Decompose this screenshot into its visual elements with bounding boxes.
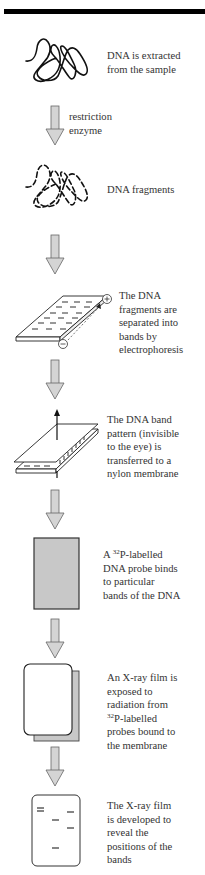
developed-film-icon xyxy=(32,795,80,866)
text-fragment: P-labelled xyxy=(114,713,157,724)
text-line: is developed to xyxy=(107,813,172,827)
minus-electrode-icon xyxy=(59,340,68,349)
text-line: enzyme xyxy=(69,124,112,138)
text-line: the membrane xyxy=(107,739,177,753)
text-line: to the eye) is xyxy=(107,440,179,454)
step-develop-text: The X-ray film is developed to reveal th… xyxy=(107,799,172,867)
text-line: to particular xyxy=(103,575,180,589)
step-transfer-text: The DNA band pattern (invisible to the e… xyxy=(107,413,179,481)
step-enzyme-text: restriction enzyme xyxy=(69,110,112,137)
gel-electrophoresis-icon xyxy=(16,295,112,349)
text-line: exposed to xyxy=(107,685,177,699)
superscript: 32 xyxy=(107,712,114,720)
step-xray-text: An X-ray film is exposed to radiation fr… xyxy=(107,671,177,753)
text-line: transferred to a xyxy=(107,454,179,468)
text-line: bands of the DNA xyxy=(103,589,180,603)
plus-electrode-icon xyxy=(103,295,112,304)
text-line: The DNA xyxy=(119,289,183,303)
text-fragment: A xyxy=(103,549,113,560)
text-line: DNA is extracted xyxy=(107,49,181,63)
step-probe-text: A 32P-labelled DNA probe binds to partic… xyxy=(103,548,180,602)
membrane-transfer-icon xyxy=(14,409,98,478)
down-arrow-icon xyxy=(46,106,64,145)
top-rule xyxy=(4,9,205,14)
step-fragments-text: DNA fragments xyxy=(107,183,174,197)
text-line: The X-ray film xyxy=(107,799,172,813)
step-extract-text: DNA is extracted from the sample xyxy=(107,49,181,76)
text-line: electrophoresis xyxy=(119,343,183,357)
superscript: 32 xyxy=(113,548,120,556)
text-line: radiation from xyxy=(107,698,177,712)
text-line: bands xyxy=(107,853,172,867)
text-fragment: P-labelled xyxy=(120,549,163,560)
step-electrophoresis-text: The DNA fragments are separated into ban… xyxy=(119,289,183,357)
text-line: nylon membrane xyxy=(107,467,179,481)
probe-membrane-icon xyxy=(34,538,79,609)
text-line: 32P-labelled xyxy=(107,712,177,726)
text-line: from the sample xyxy=(107,63,181,77)
text-line: reveal the xyxy=(107,826,172,840)
text-line: A 32P-labelled xyxy=(103,548,180,562)
text-line: separated into xyxy=(119,316,183,330)
text-line: positions of the xyxy=(107,840,172,854)
text-line: DNA fragments xyxy=(107,183,174,197)
text-line: pattern (invisible xyxy=(107,427,179,441)
text-line: restriction xyxy=(69,110,112,124)
text-line: bands by xyxy=(119,330,183,344)
text-line: probes bound to xyxy=(107,725,177,739)
text-line: The DNA band xyxy=(107,413,179,427)
xray-film-icon xyxy=(24,664,79,741)
text-line: DNA probe binds xyxy=(103,562,180,576)
text-line: fragments are xyxy=(119,303,183,317)
text-line: An X-ray film is xyxy=(107,671,177,685)
